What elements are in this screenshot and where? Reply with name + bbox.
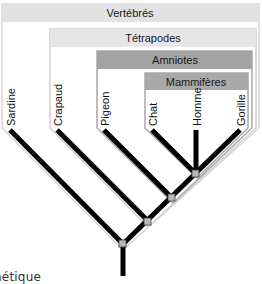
clade-tetrapodes-label: Tétrapodes: [125, 32, 181, 44]
leaf-sardine: Sardine: [5, 88, 17, 126]
node-tetrapodes: [144, 218, 151, 225]
node-amniotes: [168, 194, 175, 201]
leaf-gorille: Gorille: [235, 94, 247, 126]
node-vertebres: [119, 240, 126, 247]
leaf-homme: Homme: [191, 87, 203, 126]
caption-partial: nétique: [0, 270, 41, 284]
leaf-chat: Chat: [147, 103, 159, 126]
clade-mammiferes-label: Mammifères: [166, 76, 227, 88]
clade-vertebres-label: Vertébrés: [106, 7, 154, 19]
node-mammiferes: [192, 170, 199, 177]
leaf-pigeon: Pigeon: [99, 92, 111, 126]
clade-amniotes-label: Amniotes: [152, 54, 198, 66]
leaf-crapaud: Crapaud: [52, 84, 64, 126]
